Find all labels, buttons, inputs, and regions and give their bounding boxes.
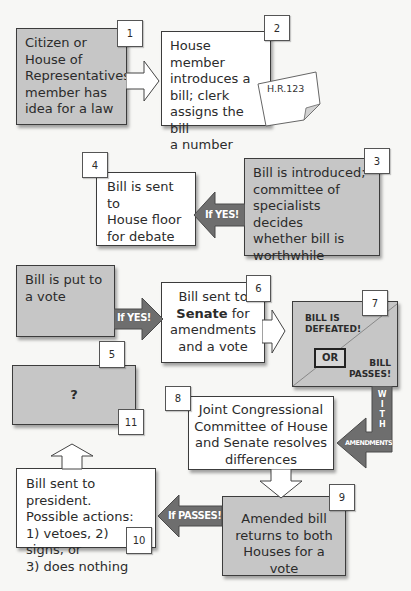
- if-yes-label: If YES!: [117, 312, 151, 323]
- defeated-line: DEFEATED!: [305, 324, 361, 335]
- step-1-number: 1: [117, 20, 143, 47]
- with-letter: W: [377, 390, 387, 400]
- step-1-line: Representatives: [25, 68, 118, 85]
- step-4-line: House floor: [107, 212, 185, 229]
- step-5-line: Bill is put to: [25, 272, 106, 289]
- step-4-box: Bill is sent to House floor for debate: [96, 172, 196, 246]
- step-6-number: 6: [246, 275, 271, 302]
- or-label: OR: [314, 348, 346, 368]
- passes-line: BILL: [349, 358, 391, 369]
- step-5-number: 5: [99, 341, 125, 368]
- bill-note-icon: [256, 70, 322, 128]
- step-3-line: worthwhile: [253, 248, 371, 265]
- passes-line: PASSES!: [349, 369, 391, 380]
- step-5-box: Bill is put to a vote: [16, 265, 115, 337]
- step-10-number: 10: [126, 527, 152, 554]
- step-8-box: Joint Congressional Committee of House a…: [188, 396, 334, 470]
- amendments-label: AMENDMENTS: [345, 439, 392, 447]
- step-9-number: 9: [329, 484, 355, 511]
- step-7-number: 7: [362, 290, 388, 316]
- step-8-line: Committee of House: [193, 419, 329, 436]
- step-2-line: House member: [170, 38, 262, 71]
- bill-passes-label: BILL PASSES!: [349, 358, 391, 380]
- step-1-line: House of: [25, 52, 118, 69]
- hollow-arrow-right-icon: [262, 309, 286, 354]
- step-3-line: Bill is introduced;: [253, 165, 371, 182]
- step-5-line: a vote: [25, 289, 106, 306]
- step-9-box: Amended bill returns to both Houses for …: [222, 496, 346, 576]
- step-10-line: Possible actions:: [26, 509, 146, 526]
- hollow-arrow-up-icon: [50, 443, 94, 470]
- step-6-line: and a vote: [166, 339, 260, 356]
- step-4-line: for debate: [107, 229, 185, 246]
- step-2-line: assigns the bill: [170, 104, 262, 137]
- step-1-line: idea for a law: [25, 101, 118, 118]
- step-2-line: bill; clerk: [170, 88, 262, 105]
- step-2-box: House member introduces a bill; clerk as…: [161, 31, 271, 126]
- if-passes-label: If PASSES!: [168, 510, 221, 521]
- step-6-line: Senate for: [166, 306, 260, 323]
- step-6-line-part: for: [232, 306, 250, 321]
- with-label: W I T H: [377, 390, 387, 430]
- step-2-line: introduces a: [170, 71, 262, 88]
- step-3-line: specialists decides: [253, 198, 371, 231]
- step-3-box: Bill is introduced; committee of special…: [244, 158, 380, 256]
- senate-emphasis: Senate: [176, 306, 227, 321]
- step-10-line: Bill sent to president.: [26, 476, 146, 509]
- step-9-line: Amended bill: [227, 511, 341, 528]
- with-letter: I: [377, 400, 387, 410]
- step-9-line: Houses for a vote: [227, 544, 341, 577]
- step-8-line: Joint Congressional: [193, 402, 329, 419]
- step-4-line: Bill is sent to: [107, 179, 185, 212]
- with-letter: H: [377, 420, 387, 430]
- step-1-box: Citizen or House of Representatives memb…: [16, 28, 127, 125]
- step-6-line: amendments: [166, 322, 260, 339]
- step-1-line: member has: [25, 85, 118, 102]
- bill-number-label: H.R.123: [267, 83, 304, 94]
- step-9-line: returns to both: [227, 528, 341, 545]
- step-3-line: whether bill is: [253, 231, 371, 248]
- step-3-number: 3: [364, 148, 390, 174]
- step-10-line: 3) does nothing: [26, 559, 146, 576]
- step-2-number: 2: [264, 15, 290, 41]
- step-11-number: 11: [118, 409, 144, 435]
- step-4-number: 4: [82, 152, 108, 178]
- if-yes-label: If YES!: [205, 209, 239, 220]
- step-8-line: and Senate resolves: [193, 435, 329, 452]
- step-8-number: 8: [165, 386, 191, 411]
- step-3-line: committee of: [253, 182, 371, 199]
- hollow-arrow-right-icon: [126, 60, 160, 102]
- unknown-outcome-label: ?: [70, 387, 78, 404]
- hollow-arrow-down-icon: [259, 469, 303, 499]
- step-8-line: differences: [193, 452, 329, 469]
- step-2-line: a number: [170, 137, 262, 154]
- step-1-line: Citizen or: [25, 35, 118, 52]
- bill-defeated-label: BILL IS DEFEATED!: [305, 313, 361, 335]
- defeated-line: BILL IS: [305, 313, 361, 324]
- with-letter: T: [377, 410, 387, 420]
